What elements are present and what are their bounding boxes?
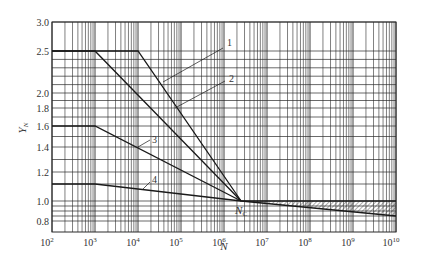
x-tick-label: 107 <box>255 236 269 248</box>
y-tick-label: 1.2 <box>37 167 50 178</box>
curve-label: 2 <box>229 73 234 84</box>
y-tick-label: 2.5 <box>37 46 50 57</box>
y-tick-label: 0.8 <box>37 216 50 227</box>
leader-line <box>143 182 150 189</box>
y-tick-label: 1.0 <box>37 196 50 207</box>
x-axis-label: N <box>219 240 228 252</box>
x-tick-label: 1010 <box>383 236 401 248</box>
leader-line <box>138 140 150 147</box>
leader-line <box>163 48 223 82</box>
y-tick-label: 1.6 <box>37 121 50 132</box>
x-tick-label: 103 <box>83 236 97 248</box>
y-axis-label: YN <box>16 122 30 133</box>
curve-label: 4 <box>152 174 157 185</box>
x-tick-label: 102 <box>40 236 54 248</box>
curve-label: 1 <box>227 37 232 48</box>
chart: 1234NC 3.02.52.01.81.61.41.21.00.8102103… <box>0 0 421 268</box>
y-tick-label: 1.4 <box>37 142 50 153</box>
x-tick-label: 105 <box>169 236 183 248</box>
curve-label: 3 <box>152 134 157 145</box>
y-tick-label: 1.8 <box>37 103 50 114</box>
y-tick-label: 3.0 <box>37 17 50 28</box>
x-tick-label: 108 <box>298 236 312 248</box>
y-tick-label: 2.0 <box>37 88 50 99</box>
x-tick-label: 104 <box>126 236 140 248</box>
x-tick-label: 109 <box>341 236 355 248</box>
